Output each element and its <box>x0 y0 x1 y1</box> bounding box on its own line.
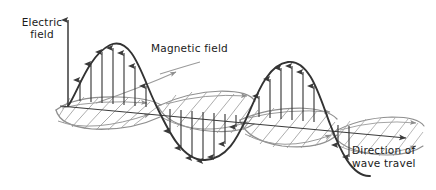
electric-field-sine-curve <box>68 43 370 176</box>
electromagnetic-wave-diagram: Electric field Magnetic field Direction … <box>0 0 436 190</box>
direction-of-travel-label: Direction of wave travel <box>352 144 416 169</box>
electric-field-label: Electric field <box>17 17 67 40</box>
magnetic-field-label: Magnetic field <box>151 43 228 55</box>
